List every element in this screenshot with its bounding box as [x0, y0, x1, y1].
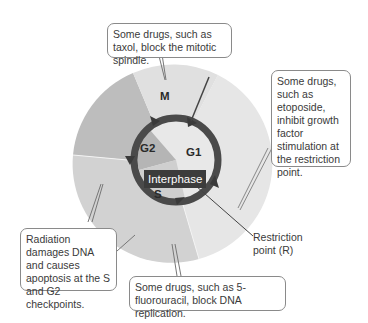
- interphase-label: Interphase: [144, 170, 206, 188]
- phase-label-m: M: [160, 90, 170, 102]
- restriction-point-line1: Restriction: [253, 231, 303, 244]
- phase-label-g1: G1: [186, 146, 201, 158]
- phase-label-g2: G2: [140, 142, 155, 154]
- restriction-point-line2: point (R): [253, 244, 303, 257]
- callout-radiation: Radiation damages DNA and causes apoptos…: [20, 228, 117, 291]
- restriction-point-label: Restriction point (R): [253, 231, 303, 257]
- callout-mitotic-spindle: Some drugs, such as taxol, block the mit…: [107, 23, 232, 58]
- callout-dna-replication: Some drugs, such as 5-fluorouracil, bloc…: [129, 276, 286, 311]
- phase-label-s: S: [154, 188, 162, 200]
- callout-restriction-point: Some drugs, such as etoposide, inhibit g…: [271, 70, 351, 167]
